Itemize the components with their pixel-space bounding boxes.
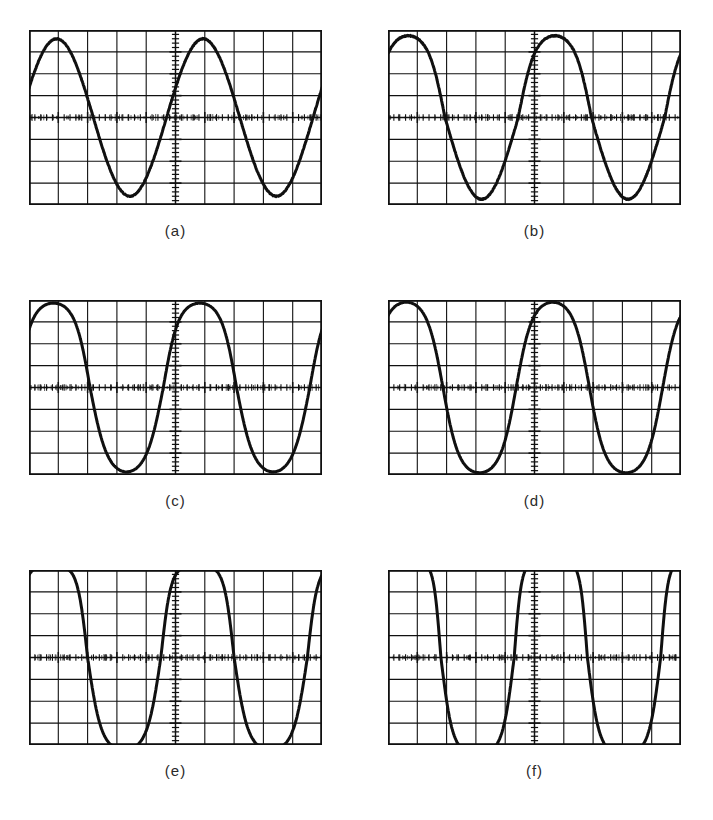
center-axes <box>388 570 681 745</box>
scope-panel-b <box>388 30 681 205</box>
scope-screen-b <box>388 30 681 205</box>
panel-caption-b: (b) <box>388 222 681 239</box>
panel-caption-d: (d) <box>388 492 681 509</box>
scope-panel-d <box>388 300 681 475</box>
panel-caption-e: (e) <box>29 762 322 779</box>
panel-caption-a: (a) <box>29 222 322 239</box>
scope-panel-a <box>29 30 322 205</box>
scope-screen-c <box>29 300 322 475</box>
panel-caption-f: (f) <box>388 762 681 779</box>
center-axes <box>388 300 681 475</box>
scope-screen-e <box>29 570 322 745</box>
scope-panel-c <box>29 300 322 475</box>
scope-screen-a <box>29 30 322 205</box>
scope-screen-f <box>388 570 681 745</box>
scope-panel-f <box>388 570 681 745</box>
scope-panel-e <box>29 570 322 745</box>
scope-screen-d <box>388 300 681 475</box>
panel-caption-c: (c) <box>29 492 322 509</box>
waveform-figure: (a)(b)(c)(d)(e)(f) <box>0 0 713 820</box>
